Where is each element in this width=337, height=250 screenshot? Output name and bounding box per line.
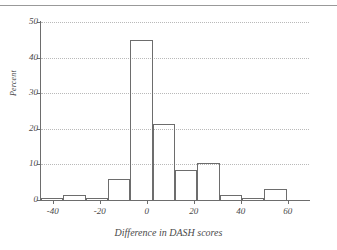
- top-divider-rule: [0, 5, 337, 6]
- x-tick-mark: [194, 200, 195, 204]
- y-axis-title: Percent: [9, 70, 18, 96]
- y-tick-label: 20: [29, 124, 38, 133]
- histogram-bar: [264, 189, 286, 200]
- histogram-bar: [197, 163, 219, 200]
- y-tick-label: 50: [29, 17, 38, 26]
- x-tick-label: 60: [283, 206, 292, 216]
- x-tick-mark: [147, 200, 148, 204]
- y-tick-label: 40: [29, 53, 38, 62]
- histogram-bar: [153, 124, 175, 200]
- x-tick-label: 40: [236, 206, 245, 216]
- histogram-bar: [175, 170, 197, 200]
- x-tick-label: -20: [94, 206, 106, 216]
- histogram-bar: [130, 40, 152, 200]
- x-axis-title: Difference in DASH scores: [0, 227, 337, 238]
- x-tick-mark: [241, 200, 242, 204]
- x-axis-line: [40, 200, 310, 201]
- histogram-bar: [86, 198, 108, 200]
- x-tick-mark: [100, 200, 101, 204]
- histogram-figure: 01020304050 -40-200204060 Percent Differ…: [0, 0, 337, 250]
- x-tick-mark: [288, 200, 289, 204]
- y-tick-label: 30: [29, 88, 38, 97]
- x-tick-label: 20: [189, 206, 198, 216]
- plot-area: [41, 22, 309, 200]
- histogram-bar: [63, 195, 85, 200]
- x-tick-label: 0: [145, 206, 150, 216]
- y-tick-label: 10: [29, 159, 38, 168]
- histogram-bar: [242, 198, 264, 200]
- x-tick-mark: [53, 200, 54, 204]
- x-tick-label: -40: [47, 206, 59, 216]
- histogram-bar: [108, 179, 130, 200]
- histogram-bar: [220, 195, 242, 200]
- bars-group: [41, 22, 309, 200]
- y-tick-label: 0: [34, 195, 39, 204]
